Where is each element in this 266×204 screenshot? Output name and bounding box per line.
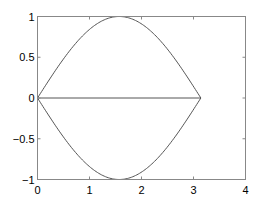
y-tick-label: −1: [22, 174, 35, 186]
y-tick-label: 0: [28, 92, 34, 104]
series-line-1: [38, 98, 201, 180]
x-axis: 01234: [34, 17, 248, 196]
line-chart: 01234 −1−0.500.51: [0, 0, 266, 204]
x-tick-label: 1: [86, 184, 92, 196]
y-tick-label: 0.5: [19, 51, 34, 63]
y-tick-label: 1: [28, 11, 34, 23]
x-tick-label: 0: [34, 184, 40, 196]
x-tick-label: 3: [190, 184, 196, 196]
x-tick-label: 2: [138, 184, 144, 196]
series-line-0: [38, 17, 201, 99]
y-tick-label: −0.5: [13, 133, 35, 145]
x-tick-label: 4: [242, 184, 248, 196]
plot-lines: [38, 17, 201, 180]
